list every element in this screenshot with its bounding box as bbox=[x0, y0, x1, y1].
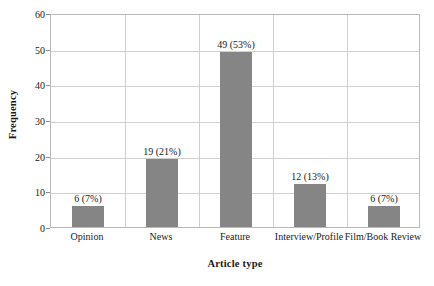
gridline-vertical bbox=[347, 15, 348, 227]
y-tick-label: 30 bbox=[6, 116, 50, 127]
y-tick-label: 60 bbox=[6, 9, 50, 20]
gridline-vertical bbox=[199, 15, 200, 227]
bar bbox=[294, 184, 326, 227]
bar bbox=[368, 206, 400, 227]
x-axis-title: Article type bbox=[50, 258, 420, 269]
bar-value-label: 12 (13%) bbox=[291, 171, 329, 182]
bar-value-label: 6 (7%) bbox=[370, 193, 398, 204]
bar bbox=[72, 206, 104, 227]
bar bbox=[220, 52, 252, 227]
y-tick-label: 10 bbox=[6, 187, 50, 198]
plot-area: 6 (7%)19 (21%)49 (53%)12 (13%)6 (7%) bbox=[50, 14, 420, 228]
bar-chart: Frequency 0102030405060 6 (7%)19 (21%)49… bbox=[0, 0, 434, 286]
gridline-vertical bbox=[125, 15, 126, 227]
y-axis-ticks: 0102030405060 bbox=[0, 14, 50, 228]
bar-value-label: 19 (21%) bbox=[143, 146, 181, 157]
y-tick-label: 20 bbox=[6, 151, 50, 162]
y-tick-label: 40 bbox=[6, 80, 50, 91]
x-tick-label: Film/Book Review bbox=[338, 231, 428, 243]
y-tick-label: 50 bbox=[6, 44, 50, 55]
bar bbox=[146, 159, 178, 227]
bar-value-label: 49 (53%) bbox=[217, 39, 255, 50]
bar-value-label: 6 (7%) bbox=[74, 193, 102, 204]
gridline-vertical bbox=[273, 15, 274, 227]
y-tick-mark bbox=[46, 228, 50, 229]
